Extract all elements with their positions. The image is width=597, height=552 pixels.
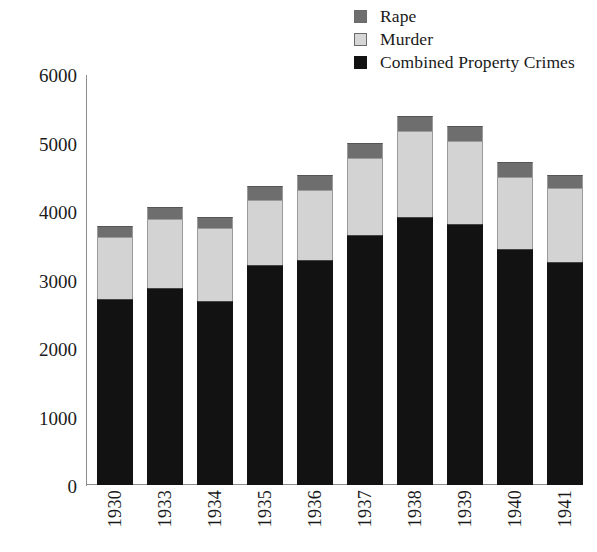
x-tick-label-1934: 1934 xyxy=(206,490,224,527)
x-tick-cell: 1936 xyxy=(297,490,333,527)
bar-stack-1936[interactable] xyxy=(297,71,333,485)
bar-stack-1937[interactable] xyxy=(347,71,383,485)
bar-stack-1939[interactable] xyxy=(447,71,483,485)
bar-segment-property-1938[interactable] xyxy=(397,217,433,485)
bar-stack-1938[interactable] xyxy=(397,71,433,485)
bar-segment-property-1933[interactable] xyxy=(147,288,183,485)
y-tick-label: 2000 xyxy=(39,340,77,359)
bar-segment-murder-1930[interactable] xyxy=(97,237,133,299)
bar-segment-property-1935[interactable] xyxy=(247,265,283,485)
stacked-bar-chart: Rape Murder Combined Property Crimes 010… xyxy=(0,0,597,552)
bar-group xyxy=(97,71,583,485)
x-tick-label-1938: 1938 xyxy=(406,490,424,527)
bar-segment-rape-1939[interactable] xyxy=(447,126,483,141)
bar-segment-murder-1934[interactable] xyxy=(197,228,233,300)
y-tick-label: 5000 xyxy=(39,134,77,153)
bar-segment-rape-1936[interactable] xyxy=(297,175,333,189)
legend-swatch-property-icon xyxy=(354,56,367,69)
x-tick-cell: 1940 xyxy=(497,490,533,527)
x-tick-label-1941: 1941 xyxy=(556,490,574,527)
bar-segment-rape-1930[interactable] xyxy=(97,226,133,237)
legend-swatch-rape-icon xyxy=(354,10,367,23)
x-tick-cell: 1939 xyxy=(447,490,483,527)
legend-label-murder: Murder xyxy=(380,30,433,49)
x-tick-cell: 1938 xyxy=(397,490,433,527)
x-tick-label-1939: 1939 xyxy=(456,490,474,527)
x-tick-cell: 1933 xyxy=(147,490,183,527)
y-tick-label: 0 xyxy=(68,477,78,496)
bar-segment-murder-1941[interactable] xyxy=(547,188,583,263)
bar-stack-1930[interactable] xyxy=(97,71,133,485)
bar-segment-rape-1935[interactable] xyxy=(247,186,283,200)
x-axis-ticks: 1930193319341935193619371938193919401941 xyxy=(97,490,583,527)
bar-segment-property-1937[interactable] xyxy=(347,235,383,485)
bar-segment-murder-1936[interactable] xyxy=(297,190,333,260)
bar-segment-property-1939[interactable] xyxy=(447,224,483,485)
bar-segment-rape-1941[interactable] xyxy=(547,175,583,188)
x-tick-label-1930: 1930 xyxy=(106,490,124,527)
x-tick-label-1940: 1940 xyxy=(506,490,524,527)
bar-segment-murder-1935[interactable] xyxy=(247,200,283,265)
bar-segment-murder-1939[interactable] xyxy=(447,141,483,224)
bar-segment-property-1941[interactable] xyxy=(547,262,583,485)
bar-segment-rape-1937[interactable] xyxy=(347,143,383,157)
x-tick-cell: 1934 xyxy=(197,490,233,527)
bar-segment-rape-1938[interactable] xyxy=(397,116,433,131)
bar-stack-1935[interactable] xyxy=(247,71,283,485)
bar-segment-property-1936[interactable] xyxy=(297,260,333,485)
x-tick-cell: 1935 xyxy=(247,490,283,527)
bar-segment-property-1940[interactable] xyxy=(497,249,533,485)
bar-segment-murder-1933[interactable] xyxy=(147,219,183,288)
x-tick-label-1935: 1935 xyxy=(256,490,274,527)
bar-stack-1934[interactable] xyxy=(197,71,233,485)
x-tick-label-1936: 1936 xyxy=(306,490,324,527)
bar-segment-rape-1933[interactable] xyxy=(147,207,183,219)
bar-stack-1933[interactable] xyxy=(147,71,183,485)
chart-legend: Rape Murder Combined Property Crimes xyxy=(354,6,575,73)
legend-label-rape: Rape xyxy=(380,7,416,26)
bar-segment-murder-1940[interactable] xyxy=(497,177,533,249)
bar-segment-property-1934[interactable] xyxy=(197,301,233,485)
bar-segment-rape-1940[interactable] xyxy=(497,162,533,176)
plot-area: 0100020003000400050006000 xyxy=(86,70,583,486)
legend-swatch-murder-icon xyxy=(354,33,367,46)
x-tick-cell: 1937 xyxy=(347,490,383,527)
x-tick-cell: 1941 xyxy=(547,490,583,527)
x-tick-label-1937: 1937 xyxy=(356,490,374,527)
bar-segment-rape-1934[interactable] xyxy=(197,217,233,228)
legend-item-murder: Murder xyxy=(354,29,575,50)
y-tick-label: 3000 xyxy=(39,271,77,290)
legend-item-rape: Rape xyxy=(354,6,575,27)
x-tick-cell: 1930 xyxy=(97,490,133,527)
bar-segment-murder-1938[interactable] xyxy=(397,131,433,217)
y-tick-label: 1000 xyxy=(39,408,77,427)
y-axis-line xyxy=(86,75,87,486)
bar-stack-1941[interactable] xyxy=(547,71,583,485)
bar-segment-property-1930[interactable] xyxy=(97,299,133,485)
x-tick-label-1933: 1933 xyxy=(156,490,174,527)
y-tick-label: 4000 xyxy=(39,203,77,222)
bar-segment-murder-1937[interactable] xyxy=(347,158,383,235)
bar-stack-1940[interactable] xyxy=(497,71,533,485)
y-tick-label: 6000 xyxy=(39,66,77,85)
